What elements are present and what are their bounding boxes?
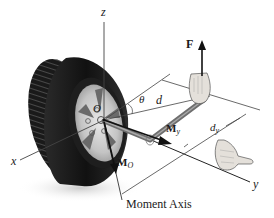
theta-arc bbox=[128, 104, 133, 114]
origin-label: O bbox=[93, 103, 101, 114]
moment-y-label: My bbox=[166, 123, 180, 136]
force-label: F bbox=[186, 38, 193, 50]
x-axis-label: x bbox=[11, 155, 16, 167]
dy-label: dy bbox=[210, 122, 219, 135]
y-axis-label: y bbox=[253, 178, 258, 190]
d-label: d bbox=[156, 94, 162, 106]
force-arrow-icon bbox=[198, 40, 206, 76]
hand-icon-upper bbox=[189, 73, 210, 104]
z-axis-label: z bbox=[101, 6, 106, 18]
theta-label: θ bbox=[139, 94, 144, 105]
moment-o-label: MO bbox=[117, 157, 133, 170]
hand-icon-lower bbox=[215, 140, 253, 170]
diagram-canvas bbox=[0, 0, 274, 218]
origin-point bbox=[103, 119, 106, 122]
moment-axis-label: Moment Axis bbox=[126, 198, 192, 210]
moment-axis-diagram: z x y O θ d F My MO dy Moment Axis bbox=[0, 0, 274, 218]
wrench-projection-line bbox=[162, 80, 260, 110]
